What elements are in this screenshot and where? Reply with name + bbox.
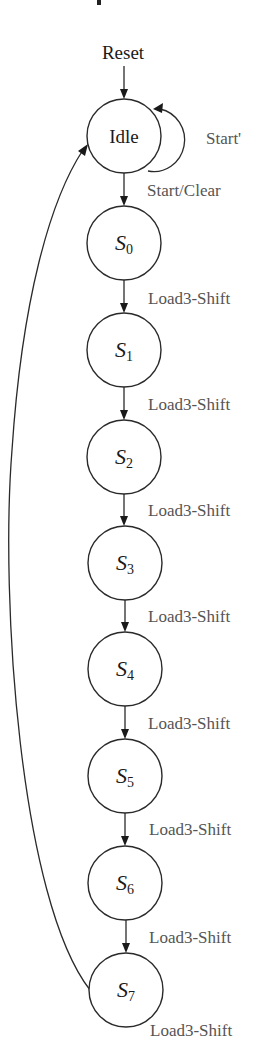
transition-label-s2-s3: Load3-Shift [148, 501, 230, 520]
edge-s2-s3-arrowhead-icon [120, 516, 128, 526]
cropped-title-fragment [97, 0, 101, 5]
reset-label: Reset [102, 42, 145, 63]
edge-idle-s0-arrowhead-icon [120, 196, 128, 206]
state-s2: S2 [87, 420, 161, 494]
edge-s6-s7-arrowhead-icon [122, 943, 130, 953]
transition-label-s1-s2: Load3-Shift [148, 395, 230, 414]
transition-label-s3-s4: Load3-Shift [148, 607, 230, 626]
state-s4: S4 [88, 632, 162, 706]
state-s1: S1 [87, 313, 161, 387]
edge-s5-s6-arrowhead-icon [121, 836, 129, 846]
state-s6: S6 [88, 846, 162, 920]
return-arc-arrowhead-icon [78, 144, 88, 156]
state-s3: S3 [88, 526, 162, 600]
transition-label-start-clear: Start/Clear [147, 181, 221, 200]
state-s7: S7 [89, 953, 163, 1027]
state-idle: Idle [87, 99, 161, 173]
transition-label-s6-s7: Load3-Shift [149, 928, 231, 947]
state-s5: S5 [88, 739, 162, 813]
edge-s0-s1-arrowhead-icon [120, 303, 128, 313]
edge-s4-s5-arrowhead-icon [121, 729, 129, 739]
edge-s3-s4-arrowhead-icon [121, 622, 129, 632]
transition-label-s7-idle: Load3-Shift [150, 1021, 232, 1040]
return-arc-s7-to-idle [9, 150, 90, 990]
reset-arrowhead-icon [120, 89, 128, 99]
self-loop-arrowhead-icon [153, 103, 163, 113]
transition-label-s4-s5: Load3-Shift [148, 714, 230, 733]
state-label-idle: Idle [109, 126, 139, 147]
transition-label-s5-s6: Load3-Shift [149, 820, 231, 839]
state-s0: S0 [87, 206, 161, 280]
edge-s1-s2-arrowhead-icon [120, 410, 128, 420]
transition-label-start-prime: Start' [206, 129, 241, 148]
transition-label-s0-s1: Load3-Shift [148, 289, 230, 308]
state-diagram: Reset Start' Idle Start/Clear S0 Load3-S… [0, 0, 277, 1055]
